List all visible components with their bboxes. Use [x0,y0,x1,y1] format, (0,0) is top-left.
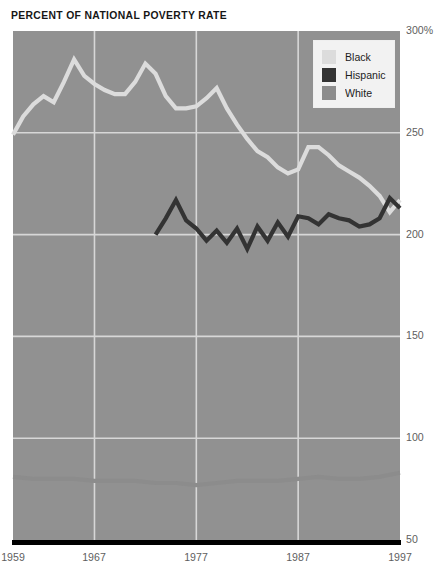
legend-item-label: Hispanic [345,69,386,81]
legend-item-hispanic: Hispanic [322,66,394,84]
poverty-rate-chart: PERCENT OF NATIONAL POVERTY RATE BlackHi… [0,0,444,573]
chart-legend: BlackHispanicWhite [313,40,395,108]
x-axis-tick-label: 1977 [173,551,219,563]
y-axis-tick-label: 200 [406,228,424,240]
y-axis-tick-label: 50 [406,533,418,545]
x-axis-tick-label: 1967 [71,551,117,563]
y-axis-tick-label: 150 [406,329,424,341]
legend-swatch-icon [322,68,336,82]
x-axis-tick-label: 1959 [0,551,36,563]
legend-swatch-icon [322,50,336,64]
y-axis-tick-label: 300% [406,24,433,36]
x-axis-tick-label: 1987 [275,551,321,563]
legend-swatch-icon [322,86,336,100]
y-axis-tick-label: 250 [406,126,424,138]
legend-item-label: White [345,87,372,99]
legend-item-white: White [322,84,394,102]
y-axis-tick-label: 100 [406,431,424,443]
x-axis-tick-label: 1997 [377,551,423,563]
legend-item-black: Black [322,48,394,66]
legend-item-label: Black [345,51,371,63]
